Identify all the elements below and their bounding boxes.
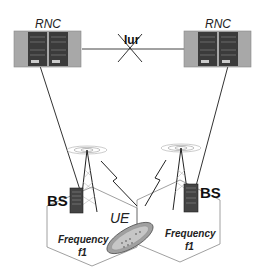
link-rnc-right-bs-right (196, 66, 228, 186)
cell-right-f1-label: f1 (185, 241, 194, 252)
cell-right-freq-label: Frequency (165, 228, 216, 239)
network-diagram: Iur RNC RNC (0, 0, 260, 273)
link-rnc-left-bs-left (40, 66, 80, 190)
bs-right-label: BS (200, 184, 221, 201)
cell-left-f1-label: f1 (78, 247, 87, 258)
rnc-left-label: RNC (35, 17, 61, 31)
bs-left: BS (47, 188, 83, 213)
iur-label: Iur (124, 33, 140, 47)
bs-right: BS (184, 184, 221, 212)
rnc-right-label: RNC (205, 17, 231, 31)
iur-link: Iur (82, 33, 184, 62)
ue-phone: UE (102, 210, 157, 260)
bs-left-label: BS (47, 192, 68, 209)
ue-label: UE (110, 210, 130, 226)
rnc-left: RNC (14, 17, 81, 67)
cell-left-freq-label: Frequency (58, 234, 109, 245)
rnc-right: RNC (184, 17, 251, 67)
radio-link-right-icon (145, 160, 166, 206)
